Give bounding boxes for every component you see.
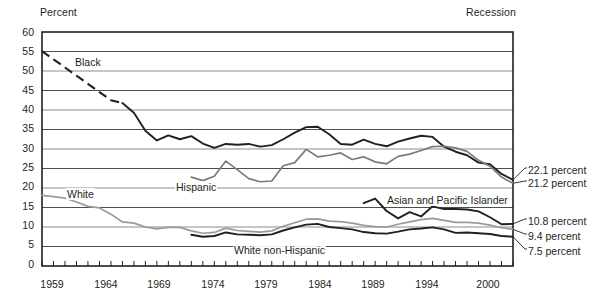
series-label-black: Black	[74, 56, 102, 68]
y-tick-0: 0	[8, 258, 34, 270]
series-label-hispanic: Hispanic	[175, 181, 217, 193]
x-tick-1994: 1994	[401, 278, 453, 290]
x-tick-1969: 1969	[133, 278, 185, 290]
y-tick-15: 15	[8, 200, 34, 212]
y-tick-5: 5	[8, 238, 34, 250]
y-tick-55: 55	[8, 45, 34, 57]
y-tick-45: 45	[8, 84, 34, 96]
y-tick-40: 40	[8, 103, 34, 115]
end-label-white-non-hispanic: 7.5 percent	[528, 245, 581, 257]
y-tick-25: 25	[8, 161, 34, 173]
x-tick-1964: 1964	[80, 278, 132, 290]
recession-legend-label: Recession	[466, 6, 516, 18]
series-label-asian-pacific-islander: Asian and Pacific Islander	[386, 194, 509, 206]
poverty-rate-chart: Percent Recession 60 55 50 45 40 35 30 2…	[0, 0, 596, 302]
y-tick-50: 50	[8, 64, 34, 76]
x-tick-1989: 1989	[347, 278, 399, 290]
plot-svg	[0, 0, 596, 302]
y-tick-10: 10	[8, 219, 34, 231]
end-label-black: 22.1 percent	[528, 164, 586, 176]
y-tick-60: 60	[8, 26, 34, 38]
end-label-white: 9.4 percent	[528, 230, 581, 242]
x-tick-2000: 2000	[462, 278, 514, 290]
y-tick-30: 30	[8, 142, 34, 154]
end-label-asian: 10.8 percent	[528, 215, 586, 227]
series-label-white: White	[66, 188, 95, 200]
x-tick-1959: 1959	[26, 278, 78, 290]
y-axis-title: Percent	[40, 6, 77, 18]
y-tick-20: 20	[8, 180, 34, 192]
x-tick-1979: 1979	[240, 278, 292, 290]
y-tick-35: 35	[8, 122, 34, 134]
series-label-white-non-hispanic: White non-Hispanic	[233, 244, 326, 256]
x-tick-1984: 1984	[294, 278, 346, 290]
end-label-hispanic: 21.2 percent	[528, 177, 586, 189]
x-tick-1974: 1974	[187, 278, 239, 290]
